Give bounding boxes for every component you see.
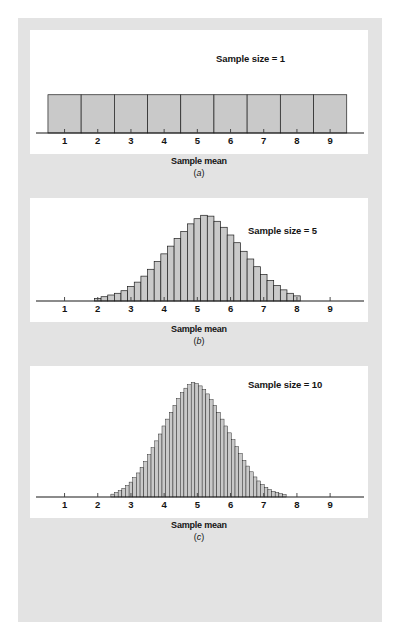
x-axis-tick-label: 5 (195, 303, 201, 314)
x-axis-tick-label: 2 (95, 135, 100, 146)
histogram-bar (195, 384, 199, 497)
caption-c: Sample mean (c) (30, 520, 368, 543)
histogram-bar (81, 95, 114, 133)
histogram-bar (148, 269, 155, 301)
histogram-bar (209, 400, 213, 497)
chart-a: 123456789Sample size = 1 (30, 30, 368, 154)
histogram-bar (235, 447, 239, 497)
histogram-bar (194, 219, 201, 301)
histogram-bar (206, 394, 210, 497)
chart-c: 123456789Sample size = 10 (30, 366, 368, 518)
histogram-bar (221, 227, 228, 301)
histogram-bar (254, 267, 261, 301)
histogram-bar (125, 486, 129, 497)
histogram-bar (161, 254, 168, 301)
histogram-bar (133, 478, 137, 497)
x-axis-tick-label: 6 (228, 303, 233, 314)
histogram-bar (280, 290, 287, 301)
histogram-bar (247, 95, 280, 133)
x-axis-tick-label: 4 (161, 303, 167, 314)
histogram-bar (228, 433, 232, 497)
x-axis-tick-label: 2 (95, 303, 100, 314)
histogram-bar (147, 455, 151, 497)
sub-label-c: (c) (30, 531, 368, 543)
histogram-bar (247, 259, 254, 301)
x-axis-tick-label: 2 (95, 499, 100, 510)
histogram-bar (136, 473, 140, 497)
histogram-bar (267, 280, 274, 301)
histogram-bar (169, 412, 173, 497)
histogram-bar (114, 95, 147, 133)
histogram-bar (162, 426, 166, 497)
x-axis-tick-label: 7 (261, 499, 266, 510)
histogram-bar (274, 286, 281, 301)
histogram-bar (101, 297, 108, 301)
chart-b: 123456789Sample size = 5 (30, 198, 368, 322)
sub-label-b: (b) (30, 335, 368, 347)
histogram-bar (242, 460, 246, 497)
histogram-bar (253, 477, 257, 497)
figure-container: 123456789Sample size = 1 Sample mean (a)… (18, 18, 382, 622)
histogram-bar (151, 448, 155, 497)
histogram-bar (231, 440, 235, 497)
panel-b: 123456789Sample size = 5 (30, 198, 368, 322)
histogram-bar (201, 215, 208, 301)
x-axis-tick-label: 4 (161, 135, 167, 146)
histogram-bar (134, 282, 141, 301)
histogram-bar (227, 235, 234, 301)
x-axis-tick-label: 8 (294, 303, 299, 314)
x-axis-tick-label: 4 (161, 499, 167, 510)
x-axis-tick-label: 7 (261, 303, 266, 314)
histogram-bar (180, 393, 184, 497)
histogram-bar (217, 412, 221, 497)
x-axis-tick-label: 1 (62, 499, 68, 510)
histogram-bar (184, 388, 188, 497)
x-axis-tick-label: 6 (228, 499, 233, 510)
histogram-bar (108, 295, 115, 301)
caption-a: Sample mean (a) (30, 156, 368, 179)
x-axis-tick-label: 5 (195, 499, 201, 510)
sub-label-c-close: ) (201, 532, 204, 542)
caption-b: Sample mean (b) (30, 324, 368, 347)
x-axis-tick-label: 7 (261, 135, 266, 146)
histogram-bar (158, 434, 162, 497)
histogram-bar (214, 221, 221, 301)
x-axis-tick-label: 9 (327, 135, 332, 146)
histogram-bar (272, 491, 276, 497)
histogram-bar (181, 232, 188, 301)
histogram-bar (268, 490, 272, 497)
histogram-bar (121, 291, 128, 301)
x-axis-tick-label: 8 (294, 135, 299, 146)
x-axis-tick-label: 8 (294, 499, 299, 510)
histogram-bar (177, 398, 181, 497)
x-axis-tick-label: 1 (62, 303, 68, 314)
histogram-bar (115, 492, 119, 497)
x-axis-tick-label: 3 (128, 303, 133, 314)
histogram-bar (173, 405, 177, 497)
histogram-bar (280, 95, 313, 133)
x-axis-tick-label: 1 (62, 135, 68, 146)
histogram-bar (148, 95, 181, 133)
x-axis-tick-label: 5 (195, 135, 201, 146)
histogram-bar (187, 224, 194, 301)
x-axis-tick-label: 3 (128, 499, 133, 510)
histogram-bar (154, 262, 161, 301)
histogram-bar (250, 472, 254, 497)
x-axis-tick-label: 9 (327, 499, 332, 510)
panel-a: 123456789Sample size = 1 (30, 30, 368, 154)
histogram-bar (287, 293, 294, 301)
series-label: Sample size = 5 (248, 225, 318, 236)
histogram-bar (234, 243, 241, 301)
panel-c: 123456789Sample size = 10 (30, 366, 368, 518)
sub-label-a: (a) (30, 167, 368, 179)
histogram-bar (240, 251, 247, 301)
histogram-bar (114, 293, 121, 301)
histogram-bar (118, 491, 122, 497)
histogram-bar (213, 405, 217, 497)
histogram-bar (275, 492, 279, 497)
histogram-bar (174, 238, 181, 301)
sub-label-b-close: ) (202, 336, 205, 346)
axis-title-a: Sample mean (30, 156, 368, 167)
x-axis-tick-label: 3 (128, 135, 133, 146)
series-label: Sample size = 1 (216, 53, 286, 64)
